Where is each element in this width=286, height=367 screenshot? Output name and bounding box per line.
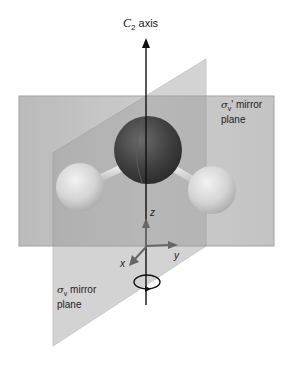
water-symmetry-diagram: [0, 0, 286, 367]
y-axis-arrow: [146, 245, 170, 246]
c2-axis-text: axis: [135, 17, 158, 29]
sigma-v-label: σv mirror plane: [57, 284, 96, 310]
sigma-symbol: σ: [57, 284, 64, 295]
x-axis-label: x: [120, 258, 125, 269]
z-axis-label: z: [150, 207, 155, 218]
rotation-arrowhead: [145, 286, 151, 292]
c2-symbol: C: [123, 16, 131, 30]
y-axis-label: y: [174, 250, 179, 261]
label-line2: plane: [57, 299, 81, 310]
hydrogen-atom-left: [56, 163, 104, 211]
label-line2: plane: [221, 114, 245, 125]
label-line1: mirror: [233, 99, 262, 110]
oxygen-atom: [114, 116, 182, 184]
c2-axis-label: C2 axis: [123, 18, 158, 33]
c2-axis-arrowhead: [142, 38, 150, 48]
hydrogen-atom-right: [188, 166, 236, 214]
sigma-v-prime-label: σv' mirror plane: [221, 99, 262, 125]
label-line1: mirror: [67, 284, 96, 295]
sigma-symbol: σ: [221, 99, 228, 110]
